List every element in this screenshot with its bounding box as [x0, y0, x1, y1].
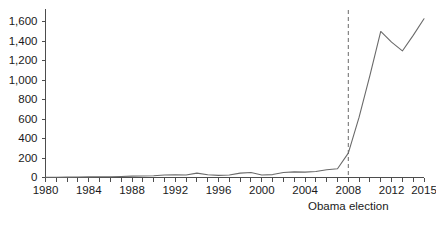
- chart-container: 02004006008001,0001,2001,4001,600 198019…: [0, 0, 436, 228]
- x-tick-label: 1996: [206, 184, 232, 196]
- x-tick-label: 2012: [379, 184, 405, 196]
- y-tick-label: 400: [18, 132, 37, 144]
- x-tick-label: 2008: [336, 184, 362, 196]
- y-tick-label: 1,400: [9, 35, 38, 47]
- x-axis-ticks: 1980198419881992199620002004200820122015: [33, 178, 436, 196]
- data-series-line: [46, 19, 425, 177]
- y-axis-ticks: 02004006008001,0001,2001,4001,600: [9, 15, 46, 183]
- x-tick-label: 1980: [33, 184, 59, 196]
- y-tick-label: 600: [18, 113, 37, 125]
- y-tick-label: 1,200: [9, 54, 38, 66]
- y-tick-label: 0: [31, 171, 37, 183]
- obama-election-label: Obama election: [308, 200, 389, 212]
- x-tick-label: 1984: [76, 184, 102, 196]
- y-tick-label: 800: [18, 93, 37, 105]
- y-tick-label: 200: [18, 152, 37, 164]
- x-tick-label: 2000: [249, 184, 275, 196]
- y-tick-label: 1,600: [9, 15, 38, 27]
- x-tick-label: 1992: [162, 184, 188, 196]
- x-tick-label: 2004: [292, 184, 318, 196]
- line-chart: 02004006008001,0001,2001,4001,600 198019…: [0, 0, 436, 228]
- x-tick-label: 2015: [411, 184, 436, 196]
- x-tick-label: 1988: [119, 184, 145, 196]
- y-tick-label: 1,000: [9, 74, 38, 86]
